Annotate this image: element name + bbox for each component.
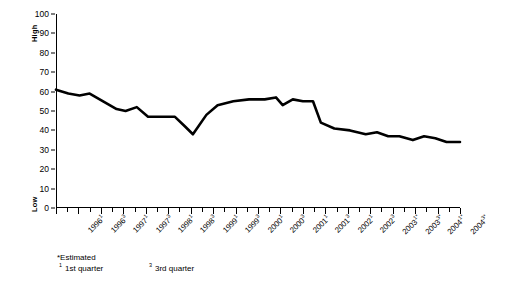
x-tick-label-7: 19993 [243, 214, 264, 235]
footnote-q3-text: 3rd quarter [155, 264, 194, 273]
footnote-q1-text: 1st quarter [65, 264, 103, 273]
x-tick-minor-16 [426, 208, 427, 212]
x-tick-minor-1 [90, 208, 91, 212]
x-tick-minor-4 [157, 208, 158, 212]
x-tick-minor-8 [247, 208, 248, 212]
y-tick-label-80: 80 [40, 49, 49, 58]
y-tick-label-70: 70 [40, 68, 49, 77]
x-tick-label-17: 20043* [468, 214, 490, 236]
plot-area: 0102030405060708090100 [56, 14, 460, 208]
x-tick-label-2: 19971 [131, 214, 152, 235]
y-tick-label-100: 100 [35, 10, 49, 19]
x-tick-label-5: 19983 [198, 214, 219, 235]
x-tick-label-6: 19991 [221, 214, 242, 235]
x-tick-label-12: 20021 [356, 214, 377, 235]
y-tick-mark-40 [51, 130, 55, 131]
footnote-q1-marker: 1 [59, 262, 62, 268]
y-tick-mark-100 [51, 14, 55, 15]
footnote-estimated: *Estimated [57, 253, 96, 264]
y-axis-low-label: Low [30, 196, 39, 212]
footnote-q3: 33rd quarter [149, 264, 194, 275]
x-tick-label-0: 19961 [86, 214, 107, 235]
x-tick-minor-0 [67, 208, 68, 212]
x-tick-minor-12 [337, 208, 338, 212]
y-tick-label-60: 60 [40, 87, 49, 96]
y-tick-label-30: 30 [40, 146, 49, 155]
footnote-q1: 11st quarter [59, 264, 103, 275]
footnotes: *Estimated 11st quarter 33rd quarter [57, 253, 96, 274]
x-tick-label-8: 20001 [266, 214, 287, 235]
x-axis-labels: 1996119963199711997319981199831999119993… [56, 214, 460, 252]
x-tick-minor-9 [269, 208, 270, 212]
chart-page: High Low 0102030405060708090100 19961199… [0, 0, 519, 286]
footnote-estimated-text: *Estimated [57, 253, 96, 262]
footnote-quarters: 11st quarter 33rd quarter [57, 264, 96, 275]
y-axis-high-label: High [30, 25, 39, 42]
y-tick-mark-20 [51, 169, 55, 170]
x-tick-minor-3 [135, 208, 136, 212]
x-tick-minor-2 [112, 208, 113, 212]
x-tick-minor-11 [314, 208, 315, 212]
x-tick-minor-17 [449, 208, 450, 212]
y-tick-label-10: 10 [40, 184, 49, 193]
y-tick-label-90: 90 [40, 29, 49, 38]
y-tick-mark-30 [51, 149, 55, 150]
x-tick-minor-14 [381, 208, 382, 212]
y-tick-mark-70 [51, 72, 55, 73]
y-tick-mark-50 [51, 111, 55, 112]
y-tick-mark-60 [51, 91, 55, 92]
x-tick-label-4: 19981 [176, 214, 197, 235]
x-tick-label-10: 20011 [311, 214, 332, 235]
x-tick-label-13: 20023 [378, 214, 399, 235]
y-tick-mark-10 [51, 188, 55, 189]
x-tick-minor-6 [202, 208, 203, 212]
x-tick-label-14: 20031* [401, 214, 423, 236]
x-tick-minor-15 [404, 208, 405, 212]
x-tick-minor-5 [179, 208, 180, 212]
x-tick-minor-10 [292, 208, 293, 212]
x-tick-label-11: 20013 [333, 214, 354, 235]
x-tick-minor-13 [359, 208, 360, 212]
x-tick-label-16: 20041* [446, 214, 468, 236]
x-tick-label-1: 19963 [109, 214, 130, 235]
y-tick-mark-90 [51, 33, 55, 34]
y-tick-label-20: 20 [40, 165, 49, 174]
y-tick-label-0: 0 [44, 204, 49, 213]
y-tick-mark-80 [51, 52, 55, 53]
x-tick-label-9: 20003 [288, 214, 309, 235]
x-tick-label-15: 20033* [423, 214, 445, 236]
y-tick-label-40: 40 [40, 126, 49, 135]
x-tick-label-3: 19973 [154, 214, 175, 235]
x-tick-minor-7 [224, 208, 225, 212]
y-tick-label-50: 50 [40, 107, 49, 116]
series-line-index [56, 90, 460, 142]
y-tick-mark-0 [51, 208, 55, 209]
footnote-q3-marker: 3 [149, 262, 152, 268]
series-line-chart [56, 14, 460, 208]
